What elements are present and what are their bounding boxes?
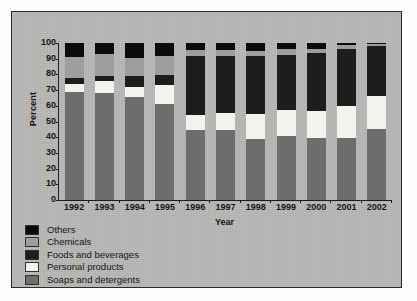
bar-segment[interactable] xyxy=(307,43,326,49)
bar-segment[interactable] xyxy=(125,43,144,58)
y-axis-tick-80: 80 xyxy=(30,69,56,78)
bar-2002[interactable] xyxy=(367,43,386,200)
x-axis-tick-1993: 1993 xyxy=(87,202,121,212)
x-axis-line xyxy=(58,200,392,201)
legend-label: Personal products xyxy=(47,261,124,273)
bar-segment[interactable] xyxy=(337,106,356,138)
y-axis-tick-90: 90 xyxy=(30,54,56,63)
bar-segment[interactable] xyxy=(246,56,265,115)
bar-segment[interactable] xyxy=(155,104,174,200)
y-axis-tick-20: 20 xyxy=(30,164,56,173)
x-axis-tick-1998: 1998 xyxy=(239,202,273,212)
y-axis-tick-0: 0 xyxy=(30,195,56,204)
legend-label: Foods and beverages xyxy=(47,249,139,261)
x-axis-tickmark xyxy=(391,200,392,203)
bar-segment[interactable] xyxy=(155,56,174,75)
bar-segment[interactable] xyxy=(125,58,144,76)
bar-segment[interactable] xyxy=(95,43,114,54)
y-axis-line xyxy=(58,43,59,201)
bar-segment[interactable] xyxy=(277,55,296,110)
bar-segment[interactable] xyxy=(307,138,326,200)
bar-segment[interactable] xyxy=(277,43,296,49)
bar-segment[interactable] xyxy=(277,136,296,200)
bar-segment[interactable] xyxy=(155,43,174,56)
bar-2000[interactable] xyxy=(307,43,326,200)
bar-segment[interactable] xyxy=(337,43,356,45)
bar-segment[interactable] xyxy=(155,85,174,104)
legend-label: Others xyxy=(47,224,76,236)
bar-segment[interactable] xyxy=(367,129,386,200)
x-axis-tick-2000: 2000 xyxy=(299,202,333,212)
bar-segment[interactable] xyxy=(65,84,84,92)
bar-segment[interactable] xyxy=(95,93,114,200)
legend-item[interactable]: Personal products xyxy=(25,261,255,273)
chart-legend: OthersChemicalsFoods and beveragesPerson… xyxy=(25,224,255,286)
y-axis-tick-100: 100 xyxy=(30,38,56,47)
bar-segment[interactable] xyxy=(337,45,356,49)
legend-swatch-icon xyxy=(25,262,39,272)
bar-segment[interactable] xyxy=(155,75,174,85)
bar-segment[interactable] xyxy=(216,113,235,130)
legend-swatch-icon xyxy=(25,225,39,235)
bar-segment[interactable] xyxy=(95,76,114,81)
bar-1999[interactable] xyxy=(277,43,296,200)
bar-segment[interactable] xyxy=(125,87,144,97)
bar-1993[interactable] xyxy=(95,43,114,200)
legend-swatch-icon xyxy=(25,250,39,260)
bar-segment[interactable] xyxy=(125,76,144,87)
bar-segment[interactable] xyxy=(216,50,235,55)
bar-segment[interactable] xyxy=(65,92,84,200)
legend-item[interactable]: Others xyxy=(25,224,255,236)
bar-1998[interactable] xyxy=(246,43,265,200)
bar-segment[interactable] xyxy=(367,43,386,44)
bar-segment[interactable] xyxy=(95,54,114,76)
bar-segment[interactable] xyxy=(125,97,144,200)
bar-segment[interactable] xyxy=(337,138,356,200)
x-axis-tick-1999: 1999 xyxy=(269,202,303,212)
bar-1997[interactable] xyxy=(216,43,235,200)
bar-segment[interactable] xyxy=(367,96,386,129)
legend-item[interactable]: Chemicals xyxy=(25,236,255,248)
bar-segment[interactable] xyxy=(307,53,326,111)
legend-item[interactable]: Soaps and detergents xyxy=(25,274,255,286)
bar-segment[interactable] xyxy=(216,130,235,200)
bar-segment[interactable] xyxy=(216,56,235,113)
bar-segment[interactable] xyxy=(216,43,235,50)
bar-segment[interactable] xyxy=(186,115,205,130)
bar-1995[interactable] xyxy=(155,43,174,200)
bar-segment[interactable] xyxy=(246,139,265,200)
bar-segment[interactable] xyxy=(307,111,326,138)
legend-label: Soaps and detergents xyxy=(47,274,140,286)
bar-1992[interactable] xyxy=(65,43,84,200)
chart-figure: 1009080706050403020100 Percent 199219931… xyxy=(0,0,417,301)
y-axis-tick-30: 30 xyxy=(30,148,56,157)
bar-1994[interactable] xyxy=(125,43,144,200)
y-axis-title: Percent xyxy=(28,79,38,139)
bar-segment[interactable] xyxy=(337,49,356,106)
legend-swatch-icon xyxy=(25,275,39,285)
bar-segment[interactable] xyxy=(246,43,265,51)
bar-segment[interactable] xyxy=(95,81,114,94)
bar-1996[interactable] xyxy=(186,43,205,200)
bar-segment[interactable] xyxy=(186,43,205,50)
bar-segment[interactable] xyxy=(367,44,386,46)
bar-segment[interactable] xyxy=(186,56,205,116)
x-axis-tick-1996: 1996 xyxy=(178,202,212,212)
bar-segment[interactable] xyxy=(307,49,326,53)
bar-segment[interactable] xyxy=(65,43,84,57)
bar-segment[interactable] xyxy=(186,130,205,200)
bar-segment[interactable] xyxy=(277,110,296,136)
chart-panel: 1009080706050403020100 Percent 199219931… xyxy=(11,11,402,288)
bar-segment[interactable] xyxy=(277,49,296,54)
legend-item[interactable]: Foods and beverages xyxy=(25,249,255,261)
bar-segment[interactable] xyxy=(186,50,205,55)
bar-segment[interactable] xyxy=(65,78,84,84)
bar-segment[interactable] xyxy=(246,51,265,56)
bar-segment[interactable] xyxy=(246,114,265,138)
x-axis-tick-1994: 1994 xyxy=(118,202,152,212)
bar-2001[interactable] xyxy=(337,43,356,200)
bar-segment[interactable] xyxy=(65,57,84,77)
bar-segment[interactable] xyxy=(367,46,386,96)
plot-area xyxy=(58,43,391,200)
x-axis-tick-1992: 1992 xyxy=(57,202,91,212)
